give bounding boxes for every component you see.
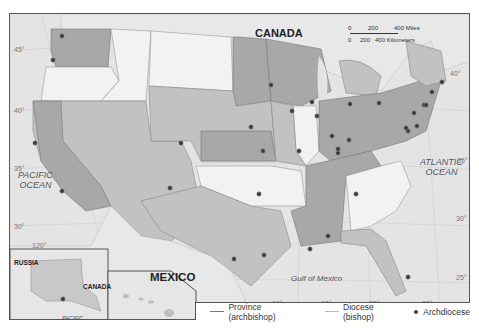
label-canada: CANADA (255, 27, 303, 39)
scale-line (350, 33, 398, 34)
label-russia: RUSSIA (14, 259, 39, 266)
map-frame: CANADA MEXICO RUSSIA CANADA PACIFIC OCEA… (9, 13, 470, 320)
scale-km-400: 400 Kilometers (375, 37, 415, 43)
label-mexico: MEXICO (150, 271, 195, 283)
lat-tick-right-25: 25° (456, 274, 467, 281)
lat-tick-35: 35° (14, 165, 25, 172)
legend: Province (archbishop) Diocese (bishop) A… (195, 302, 470, 320)
lon-tick-120: 120° (32, 242, 46, 249)
legend-province-label: Province (archbishop) (228, 302, 302, 322)
legend-archdiocese: Archdiocese (414, 307, 470, 317)
label-pacific-hawaii: PACIFIC OCEAN (122, 318, 143, 320)
legend-diocese: Diocese (bishop) (325, 302, 401, 322)
scale-km-200: 200 (360, 37, 370, 43)
scale-mi-400: 400 Miles (394, 25, 420, 31)
scale-mi-0: 0 (348, 25, 351, 31)
lat-tick-40: 40° (14, 107, 25, 114)
diocese-line-icon (325, 311, 339, 312)
lat-tick-right-35: 35° (457, 157, 468, 164)
province-line-icon (210, 311, 224, 312)
us-map-shapes (10, 14, 470, 320)
lat-tick-right-30: 30° (456, 215, 467, 222)
label-gulf-of-mexico: Gulf of Mexico (291, 274, 342, 284)
scale-mi-200: 200 (368, 25, 378, 31)
lat-tick-30: 30° (14, 223, 25, 230)
legend-diocese-label: Diocese (bishop) (343, 302, 400, 322)
legend-archdiocese-label: Archdiocese (423, 307, 470, 317)
lat-tick-right-40: 40° (450, 70, 461, 77)
label-canada-inset: CANADA (83, 283, 111, 290)
label-pacific-ocean: PACIFIC OCEAN (18, 170, 53, 190)
label-pacific-alaska: PACIFIC OCEAN (62, 315, 83, 320)
lat-tick-45: 45° (14, 46, 25, 53)
scale-km-0: 0 (348, 37, 351, 43)
archdiocese-dot-icon (414, 310, 418, 314)
legend-province: Province (archbishop) (210, 302, 303, 322)
